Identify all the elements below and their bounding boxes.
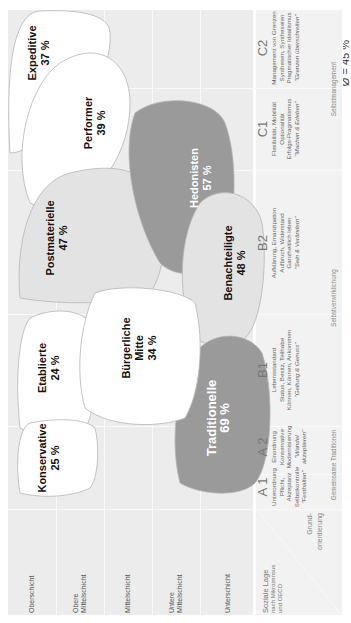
- column-text: Synthesen, Syntheseien: [278, 9, 286, 87]
- column-motto: "Wandel akzeptieren": [293, 421, 308, 473]
- milieu-benachteiligte: Benachteiligte 48 %: [222, 213, 248, 313]
- milieu-percent: 24 %: [49, 328, 62, 408]
- footer-self-realization: Selbstverwirklichung: [330, 173, 341, 423]
- milieu-traditionelle: Traditionelle 69 %: [205, 373, 231, 463]
- column-text: Flexibilität, Mobilität: [270, 89, 278, 169]
- column-code: B2: [256, 175, 270, 311]
- milieu-percent: 69 %: [218, 373, 231, 463]
- milieu-percent: 25 %: [49, 423, 62, 493]
- column-motto: "Machen & Erleben": [293, 89, 301, 169]
- footer-self-management: Selbstmanagement: [330, 9, 341, 169]
- column-c1: C1 Flexibilität, Mobilität Optionalität …: [256, 89, 328, 169]
- column-c2: C2 Management von Grenzen Synthesen, Syn…: [256, 9, 328, 87]
- milieu-name: Expeditive: [26, 13, 39, 93]
- milieu-name: Etablierte: [36, 328, 49, 408]
- column-text: Aufbruch, Widerstand: [278, 175, 286, 311]
- column-code: A 2: [256, 421, 270, 473]
- milieu-name: Benachteiligte: [222, 213, 235, 313]
- column-text: Optionalität: [278, 89, 286, 169]
- column-a2: A 2 Einordnung Konservative Modernisieru…: [256, 421, 328, 473]
- column-code: C1: [256, 89, 270, 169]
- milieu-percent: 39 %: [95, 83, 108, 163]
- column-text: Ganzheitlich leben: [285, 175, 293, 311]
- milieu-name: Hedonisten: [188, 133, 201, 223]
- column-text: Status, Besitz, Teilhabe: [278, 317, 286, 423]
- milieu-expeditive: Expeditive 37 %: [26, 13, 52, 93]
- column-text: Erfolgs-Pragmatismus: [285, 89, 293, 169]
- column-motto: "Geltung & Genuss": [293, 317, 301, 423]
- column-text: Konservative: [278, 421, 286, 473]
- milieu-konservative: Konservative 25 %: [36, 423, 62, 493]
- column-text: Können, Können, Ankommen: [285, 317, 293, 423]
- milieu-percent: 37 %: [39, 13, 52, 93]
- column-code: C2: [256, 9, 270, 87]
- column-text: Aufklärung, Emanzipation: [270, 175, 278, 311]
- milieu-percent: 47 %: [57, 188, 70, 288]
- milieu-hedonisten: Hedonisten 57 %: [188, 133, 214, 223]
- column-code: B1: [256, 317, 270, 423]
- milieu-percent: 57 %: [201, 133, 214, 223]
- milieu-name: Performer: [82, 83, 95, 163]
- milieu-name: Postmaterielle: [44, 188, 57, 288]
- milieu-etablierte: Etablierte 24 %: [36, 328, 62, 408]
- column-text: Lebensstandard: [270, 317, 278, 423]
- column-b1: B1 Lebensstandard Status, Besitz, Teilha…: [256, 317, 328, 423]
- milieu-performer: Performer 39 %: [82, 83, 108, 163]
- column-motto: "Grenzen überschreiten": [293, 9, 301, 87]
- column-text: Modernisierung: [285, 421, 293, 473]
- milieu-name: Bürgerliche: [120, 303, 133, 393]
- milieu-percent: 48 %: [235, 213, 248, 313]
- column-b2: B2 Aufklärung, Emanzipation Aufbruch, Wi…: [256, 175, 328, 311]
- milieu-name: Konservative: [36, 423, 49, 493]
- column-motto: "Sein & Verändern": [293, 175, 301, 311]
- milieu-postmaterielle: Postmaterielle 47 %: [44, 188, 70, 288]
- column-text: Einordnung: [270, 421, 278, 473]
- milieu-percent: 34 %: [146, 303, 159, 393]
- column-text: Pragmatischer Idealismus: [285, 9, 293, 87]
- milieu-name: Mitte: [133, 303, 146, 393]
- footer-traditions: Gemeinsame Traditionen: [330, 421, 341, 509]
- milieu-buergerliche-mitte: Bürgerliche Mitte 34 %: [120, 303, 159, 393]
- column-text: Management von Grenzen: [270, 9, 278, 87]
